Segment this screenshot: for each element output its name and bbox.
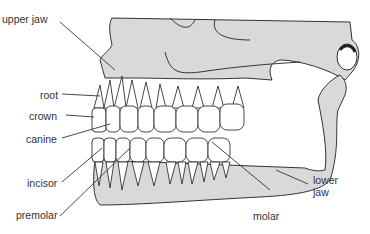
label-canine: canine bbox=[26, 134, 57, 145]
label-premolar: premolar bbox=[16, 210, 57, 221]
label-lower-jaw-2: jaw bbox=[313, 187, 329, 198]
upper-jaw-bone bbox=[100, 18, 359, 80]
label-root: root bbox=[40, 90, 58, 101]
label-incisor: incisor bbox=[27, 178, 57, 189]
label-upper-jaw: upper jaw bbox=[2, 14, 48, 25]
label-lower-jaw-1: lower bbox=[313, 175, 338, 186]
jaw-diagram: upper jaw root crown canine incisor prem… bbox=[0, 0, 370, 234]
label-molar: molar bbox=[253, 211, 279, 222]
label-crown: crown bbox=[29, 111, 57, 122]
upper-teeth bbox=[92, 76, 244, 132]
